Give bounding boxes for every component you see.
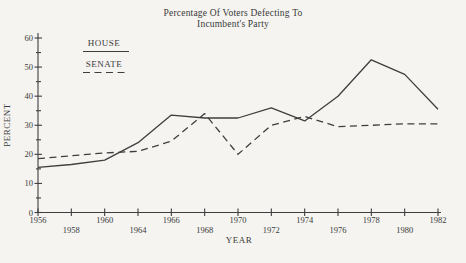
x-tick-label: 1978 (363, 215, 380, 225)
x-tick-label: 1976 (330, 225, 347, 235)
senate-series-line (38, 114, 438, 159)
legend-house-label: HOUSE (88, 38, 121, 48)
y-axis-title: PERCENT (2, 103, 12, 147)
x-tick-label: 1960 (96, 215, 113, 225)
y-tick-label: 20 (25, 149, 34, 159)
y-tick-label: 40 (25, 91, 34, 101)
voter-defection-chart: Percentage Of Voters Defecting To Incumb… (0, 0, 466, 263)
x-tick-label: 1968 (196, 225, 213, 235)
x-tick-label: 1970 (230, 215, 247, 225)
y-tick-label: 10 (25, 178, 34, 188)
x-tick-label: 1982 (430, 215, 447, 225)
y-tick-label: 50 (25, 62, 34, 72)
x-tick-label: 1958 (63, 225, 80, 235)
x-tick-label: 1966 (163, 215, 180, 225)
legend-senate-label: SENATE (86, 59, 123, 69)
x-tick-label: 1956 (30, 215, 47, 225)
house-series-line (38, 60, 438, 168)
x-tick-label: 1972 (263, 225, 280, 235)
x-tick-label: 1974 (296, 215, 314, 225)
y-tick-label: 30 (25, 120, 34, 130)
chart-title-line1: Percentage Of Voters Defecting To (164, 8, 303, 18)
plot-canvas: Percentage Of Voters Defecting To Incumb… (0, 0, 466, 263)
y-tick-label: 60 (25, 33, 34, 43)
x-tick-label: 1980 (396, 225, 413, 235)
x-axis-title: YEAR (226, 235, 253, 245)
x-tick-label: 1964 (130, 225, 148, 235)
chart-title-line2: Incumbent's Party (197, 19, 269, 29)
